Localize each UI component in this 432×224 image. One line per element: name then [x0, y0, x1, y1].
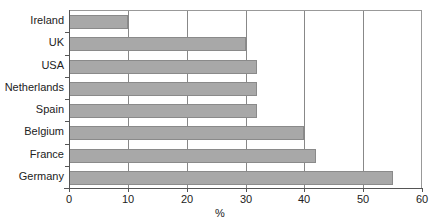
x-tick-label: 20 [172, 193, 202, 205]
x-tick [304, 188, 305, 192]
bar-usa [69, 60, 257, 74]
x-tick-label: 10 [113, 193, 143, 205]
x-axis [64, 188, 422, 189]
category-label: France [30, 148, 64, 160]
y-tick [65, 166, 69, 167]
bar-ireland [69, 15, 128, 29]
y-tick [65, 55, 69, 56]
category-label: Netherlands [5, 81, 64, 93]
category-label: Belgium [24, 125, 64, 137]
x-tick-label: 30 [231, 193, 261, 205]
x-tick [246, 188, 247, 192]
x-tick [187, 188, 188, 192]
plot-area [69, 10, 422, 188]
y-tick [65, 99, 69, 100]
x-tick-label: 0 [54, 193, 84, 205]
x-tick [69, 188, 70, 192]
category-label: Ireland [30, 14, 64, 26]
category-label: Germany [19, 170, 64, 182]
x-tick [363, 188, 364, 192]
x-tick-label: 50 [348, 193, 378, 205]
y-axis [69, 10, 70, 192]
bar-germany [69, 171, 393, 185]
gridline [363, 11, 364, 188]
y-tick [65, 77, 69, 78]
x-tick [422, 188, 423, 192]
y-tick [65, 121, 69, 122]
bar-spain [69, 104, 257, 118]
bar-belgium [69, 126, 304, 140]
x-tick-label: 60 [407, 193, 432, 205]
x-axis-label: % [210, 207, 230, 219]
y-tick [65, 32, 69, 33]
bar-france [69, 149, 316, 163]
category-label: Spain [36, 103, 64, 115]
x-tick-label: 40 [289, 193, 319, 205]
bar-uk [69, 37, 246, 51]
y-tick [65, 144, 69, 145]
category-label: USA [41, 59, 64, 71]
bar-netherlands [69, 82, 257, 96]
category-label: UK [49, 36, 64, 48]
x-tick [128, 188, 129, 192]
